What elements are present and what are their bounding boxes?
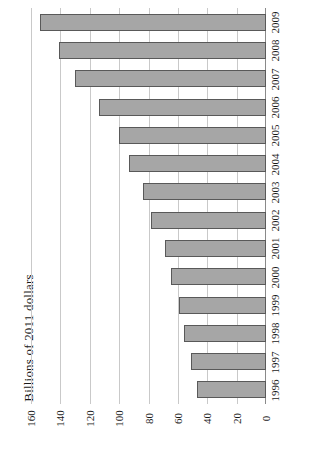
value-tick-label-120: 120 (83, 402, 96, 436)
gridline-120 (90, 8, 91, 404)
gridline-100 (119, 8, 120, 404)
bar-2000[interactable] (171, 268, 266, 285)
bar-1999[interactable] (179, 297, 266, 314)
value-tick-label-60: 60 (171, 402, 184, 436)
bar-row (31, 70, 266, 87)
bar-row (31, 353, 266, 370)
gridline-160 (31, 8, 32, 404)
bar-row (31, 297, 266, 314)
bar-2005[interactable] (119, 127, 266, 144)
bar-2001[interactable] (165, 240, 266, 257)
bar-row (31, 381, 266, 398)
bar-row (31, 325, 266, 342)
value-tick-label-40: 40 (201, 402, 214, 436)
bar-row (31, 240, 266, 257)
plot-area (31, 8, 266, 404)
value-tick-label-140: 140 (54, 402, 67, 436)
value-tick-label-20: 20 (230, 402, 243, 436)
bar-2007[interactable] (75, 70, 266, 87)
axis-baseline (265, 8, 266, 404)
bar-row (31, 42, 266, 59)
gridline-140 (60, 8, 61, 404)
bar-row (31, 14, 266, 31)
value-tick-label-80: 80 (142, 402, 155, 436)
bar-2009[interactable] (40, 14, 266, 31)
gridline-20 (237, 8, 238, 404)
gridline-40 (207, 8, 208, 404)
bar-2004[interactable] (129, 155, 266, 172)
gridline-80 (149, 8, 150, 404)
category-tick-label-2009: 2009 (269, 6, 282, 40)
value-tick-label-100: 100 (113, 402, 126, 436)
bar-row (31, 183, 266, 200)
bar-row (31, 127, 266, 144)
bar-1996[interactable] (197, 381, 266, 398)
value-tick-label-160: 160 (25, 402, 38, 436)
bar-2003[interactable] (143, 183, 266, 200)
bar-2002[interactable] (151, 212, 266, 229)
bar-row (31, 99, 266, 116)
bar-row (31, 212, 266, 229)
bar-2008[interactable] (59, 42, 266, 59)
bar-1998[interactable] (184, 325, 266, 342)
bar-row (31, 155, 266, 172)
gridline-60 (178, 8, 179, 404)
bar-row (31, 268, 266, 285)
bar-1997[interactable] (191, 353, 266, 370)
bar-2006[interactable] (99, 99, 266, 116)
